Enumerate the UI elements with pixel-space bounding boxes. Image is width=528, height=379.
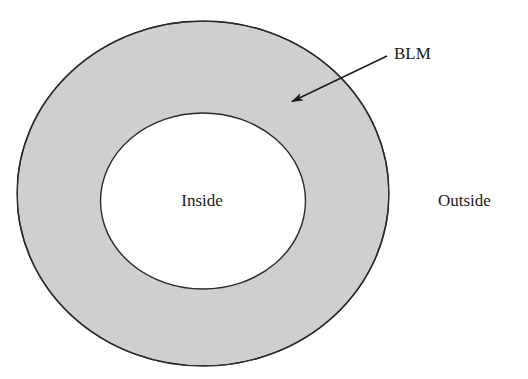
outside-label: Outside: [438, 191, 491, 210]
inside-label: Inside: [181, 191, 223, 210]
blm-diagram: BLM Inside Outside: [0, 0, 528, 379]
blm-label: BLM: [394, 44, 431, 63]
